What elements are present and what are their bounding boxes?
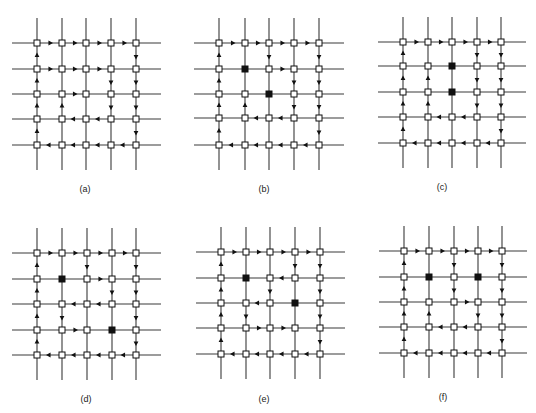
mesh-node xyxy=(401,324,407,330)
direction-arrow-icon xyxy=(230,352,235,357)
mesh-node xyxy=(316,115,322,121)
mesh-node xyxy=(59,327,65,333)
mesh-node xyxy=(267,275,273,281)
mesh-node xyxy=(449,140,455,146)
mesh-node xyxy=(316,40,322,46)
mesh-node xyxy=(425,140,431,146)
direction-arrow-icon xyxy=(46,143,51,148)
mesh-node xyxy=(317,325,323,331)
faulty-node xyxy=(242,66,248,72)
direction-arrow-icon xyxy=(317,105,322,110)
direction-arrow-icon xyxy=(401,51,406,56)
direction-arrow-icon xyxy=(461,141,466,146)
faulty-node xyxy=(426,274,432,280)
direction-arrow-icon xyxy=(440,249,445,254)
mesh-node xyxy=(84,327,90,333)
direction-arrow-icon xyxy=(281,326,286,331)
direction-arrow-icon xyxy=(134,55,139,60)
direction-arrow-icon xyxy=(219,287,224,292)
mesh-node xyxy=(34,40,40,46)
mesh-node xyxy=(291,91,297,97)
mesh-node xyxy=(216,91,222,97)
mesh-node xyxy=(425,63,431,69)
panel-label-f: (f) xyxy=(439,392,448,402)
mesh-node xyxy=(243,325,249,331)
direction-arrow-icon xyxy=(110,290,115,295)
mesh-node xyxy=(84,352,90,358)
direction-arrow-icon xyxy=(475,103,480,108)
direction-arrow-icon xyxy=(452,288,457,293)
faulty-node xyxy=(59,276,65,282)
direction-arrow-icon xyxy=(278,143,283,148)
mesh-node xyxy=(291,66,297,72)
direction-arrow-icon xyxy=(306,250,311,255)
direction-arrow-icon xyxy=(499,53,504,58)
mesh-node xyxy=(133,276,139,282)
mesh-node xyxy=(243,300,249,306)
direction-arrow-icon xyxy=(46,353,51,358)
direction-arrow-icon xyxy=(317,130,322,135)
direction-arrow-icon xyxy=(71,353,76,358)
direction-arrow-icon xyxy=(73,92,78,97)
mesh-node xyxy=(316,142,322,148)
panel-label-b: (b) xyxy=(259,184,270,194)
direction-arrow-icon xyxy=(48,67,53,72)
mesh-node xyxy=(317,300,323,306)
direction-arrow-icon xyxy=(318,314,323,319)
mesh-node xyxy=(292,351,298,357)
mesh-panel-b xyxy=(194,18,344,170)
mesh-node xyxy=(133,91,139,97)
direction-arrow-icon xyxy=(95,117,100,122)
mesh-node xyxy=(83,142,89,148)
direction-arrow-icon xyxy=(427,311,432,316)
mesh-node xyxy=(59,116,65,122)
direction-arrow-icon xyxy=(426,101,431,106)
direction-arrow-icon xyxy=(217,128,222,133)
direction-arrow-icon xyxy=(73,41,78,46)
direction-arrow-icon xyxy=(254,143,259,148)
mesh-node xyxy=(133,40,139,46)
mesh-node xyxy=(425,114,431,120)
mesh-node xyxy=(133,327,139,333)
direction-arrow-icon xyxy=(98,251,103,256)
faulty-node xyxy=(109,327,115,333)
mesh-node xyxy=(400,63,406,69)
mesh-node xyxy=(316,91,322,97)
mesh-node xyxy=(475,299,481,305)
direction-arrow-icon xyxy=(267,55,272,60)
direction-arrow-icon xyxy=(134,316,139,321)
direction-arrow-icon xyxy=(268,289,273,294)
direction-arrow-icon xyxy=(35,103,40,108)
direction-arrow-icon xyxy=(401,101,406,106)
mesh-node xyxy=(83,66,89,72)
direction-arrow-icon xyxy=(134,265,139,270)
direction-arrow-icon xyxy=(437,115,442,120)
direction-arrow-icon xyxy=(134,105,139,110)
mesh-node xyxy=(474,89,480,95)
direction-arrow-icon xyxy=(257,326,262,331)
direction-arrow-icon xyxy=(85,265,90,270)
mesh-node xyxy=(83,116,89,122)
direction-arrow-icon xyxy=(73,328,78,333)
mesh-node xyxy=(84,250,90,256)
mesh-node xyxy=(475,324,481,330)
mesh-node xyxy=(499,274,505,280)
direction-arrow-icon xyxy=(35,314,40,319)
mesh-node xyxy=(59,301,65,307)
mesh-node xyxy=(242,40,248,46)
mesh-node xyxy=(291,40,297,46)
direction-arrow-icon xyxy=(48,251,53,256)
direction-arrow-icon xyxy=(475,53,480,58)
mesh-node xyxy=(400,114,406,120)
direction-arrow-icon xyxy=(304,352,309,357)
mesh-node xyxy=(34,91,40,97)
direction-arrow-icon xyxy=(256,41,261,46)
mesh-node xyxy=(34,66,40,72)
direction-arrow-icon xyxy=(122,41,127,46)
direction-arrow-icon xyxy=(71,302,76,307)
direction-arrow-icon xyxy=(439,40,444,45)
direction-arrow-icon xyxy=(487,351,492,356)
mesh-node xyxy=(425,39,431,45)
mesh-node xyxy=(109,276,115,282)
mesh-node xyxy=(242,115,248,121)
